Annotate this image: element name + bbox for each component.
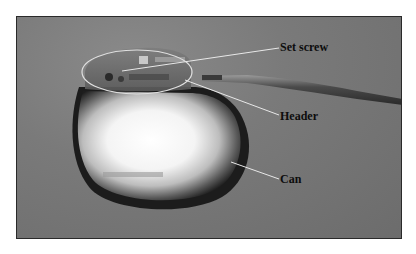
pacemaker-illustration — [17, 17, 402, 239]
pacemaker-photo: Set screw Header Can — [16, 16, 402, 239]
pacemaker-lead — [202, 75, 402, 105]
pacemaker-header — [82, 48, 192, 94]
pacemaker-can — [72, 87, 249, 209]
label-can: Can — [280, 172, 301, 187]
label-header: Header — [280, 109, 318, 124]
label-set-screw: Set screw — [280, 40, 328, 55]
